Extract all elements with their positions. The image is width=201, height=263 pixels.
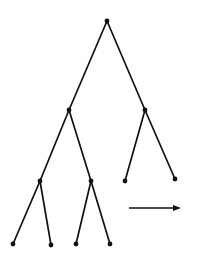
tree-edge [69,110,91,181]
tree-edge [145,110,175,179]
tree-node [49,243,54,248]
tree-graphic [0,0,201,263]
tree-edge [76,181,91,244]
tree-edge [40,181,51,245]
tree-node [67,108,72,113]
tree-node [11,242,16,247]
tree-node [105,19,110,24]
tree-diagram [0,0,201,263]
tree-node [74,242,79,247]
tree-edge [125,110,145,181]
tree-edge [40,110,69,181]
tree-node [123,179,128,184]
tree-node [89,179,94,184]
tree-edge [69,21,107,110]
tree-node [108,242,113,247]
tree-node [173,177,178,182]
tree-edge [107,21,145,110]
right-arrow-icon [129,205,181,211]
tree-node [38,179,43,184]
tree-node [143,108,148,113]
arrow-head [173,205,181,211]
tree-edge [13,181,40,244]
tree-edge [91,181,110,244]
tree-edges [13,21,175,245]
